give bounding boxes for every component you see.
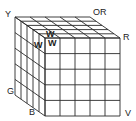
cube-diagram: Y OR R G B V W W W [0, 0, 136, 121]
grid-line [15, 48, 45, 69]
grid-line [60, 17, 90, 38]
label-g: G [7, 86, 14, 96]
grid-line [75, 17, 105, 38]
corner-label-front: W [48, 38, 57, 48]
label-v: V [125, 108, 131, 118]
label-or: OR [93, 7, 107, 17]
grid-line [15, 17, 45, 38]
grid-line [15, 79, 45, 100]
grid-line [15, 64, 45, 85]
label-r: R [123, 32, 130, 42]
grid-line [90, 17, 120, 38]
label-b: B [29, 107, 35, 117]
label-y: Y [5, 9, 11, 19]
corner-label-left: W [34, 40, 43, 50]
grid-line [30, 17, 60, 38]
cube-grid-lines [15, 17, 120, 116]
